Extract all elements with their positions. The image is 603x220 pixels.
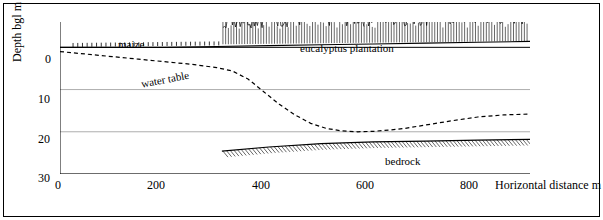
annotation-eucalyptus-plantation: eucalyptus plantation <box>300 42 394 54</box>
x-tick-600: 600 <box>356 178 374 193</box>
x-tick-200: 200 <box>147 178 165 193</box>
annotation-bedrock: bedrock <box>385 155 420 167</box>
y-tick-10: 10 <box>38 92 50 107</box>
y-tick-30: 30 <box>38 171 50 186</box>
annotation-maize: maize <box>118 38 144 50</box>
chart-figure: Depth bgl m 0 200 400 600 800 0 10 20 30… <box>0 0 603 220</box>
y-tick-0: 0 <box>45 52 51 67</box>
x-tick-400: 400 <box>252 178 270 193</box>
x-axis-title: Horizontal distance m <box>495 178 601 193</box>
y-axis-title: Depth bgl m <box>10 0 25 62</box>
y-tick-20: 20 <box>38 132 50 147</box>
x-tick-0: 0 <box>55 178 61 193</box>
x-tick-800: 800 <box>460 178 478 193</box>
